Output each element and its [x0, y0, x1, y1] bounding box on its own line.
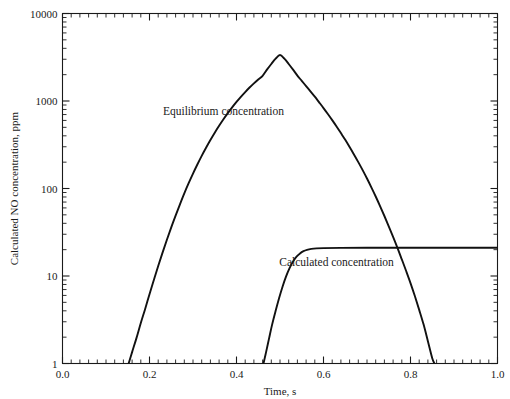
x-tick-label: 1.0 [491, 368, 505, 380]
x-tick-label: 0.4 [230, 368, 244, 380]
x-tick-label: 0.8 [404, 368, 418, 380]
y-tick-label: 1000 [36, 95, 59, 107]
y-tick-label: 100 [41, 183, 58, 195]
series-annotation: Calculated concentration [279, 256, 394, 268]
series-annotation: Equilibrium concentration [163, 105, 284, 118]
y-tick-label: 1 [52, 358, 58, 370]
x-axis-title: Time, s [264, 385, 297, 397]
y-tick-label: 10000 [30, 8, 58, 20]
plot-background [0, 0, 510, 399]
x-tick-label: 0.0 [56, 368, 70, 380]
figure-container: 0.00.20.40.60.81.0110100100010000Time, s… [0, 0, 510, 399]
x-tick-label: 0.2 [143, 368, 157, 380]
no-concentration-chart: 0.00.20.40.60.81.0110100100010000Time, s… [0, 0, 510, 399]
y-axis-title: Calculated NO concentration, ppm [8, 111, 20, 265]
x-tick-label: 0.6 [317, 368, 331, 380]
y-tick-label: 10 [47, 270, 59, 282]
